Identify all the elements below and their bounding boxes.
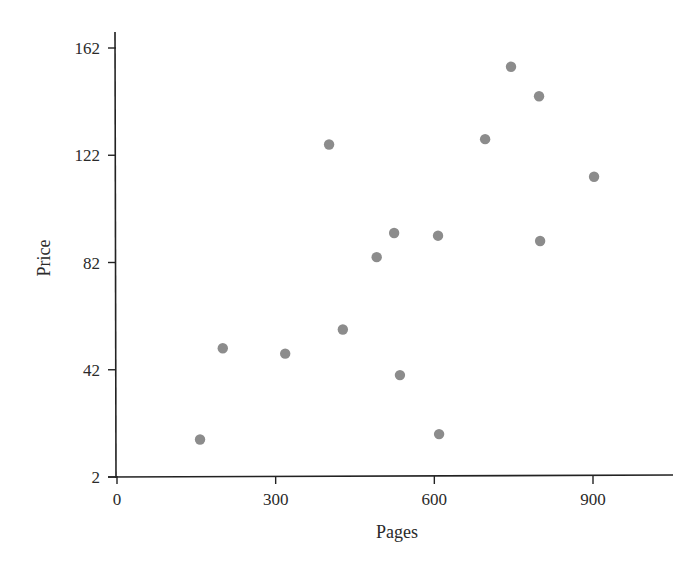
y-axis: 24282122162	[75, 32, 117, 487]
y-axis-line	[115, 32, 116, 478]
data-point	[506, 62, 516, 72]
x-axis: 0300600900	[108, 475, 673, 509]
data-point	[480, 134, 490, 144]
y-tick-label: 122	[75, 146, 101, 165]
y-tick-label: 162	[75, 39, 101, 58]
x-tick-label: 900	[580, 490, 606, 509]
x-tick-label: 600	[422, 490, 448, 509]
y-tick-label: 2	[92, 468, 101, 487]
data-point	[535, 236, 545, 246]
data-point	[534, 91, 544, 101]
x-axis-line	[108, 475, 673, 477]
data-point	[338, 324, 348, 334]
x-axis-title: Pages	[376, 522, 418, 542]
data-point	[371, 252, 381, 262]
x-tick-label: 0	[113, 490, 122, 509]
data-point	[589, 172, 599, 182]
data-point	[195, 434, 205, 444]
data-point	[280, 348, 290, 358]
data-point	[389, 228, 399, 238]
y-tick-label: 82	[83, 254, 100, 273]
x-tick-label: 300	[263, 490, 289, 509]
y-tick-label: 42	[83, 361, 100, 380]
data-point	[218, 343, 228, 353]
data-point	[324, 139, 334, 149]
scatter-chart: 24282122162 0300600900 Pages Price	[0, 0, 689, 566]
y-axis-title: Price	[34, 239, 54, 276]
data-point	[395, 370, 405, 380]
data-point	[433, 230, 443, 240]
data-point	[434, 429, 444, 439]
data-points	[195, 62, 599, 445]
